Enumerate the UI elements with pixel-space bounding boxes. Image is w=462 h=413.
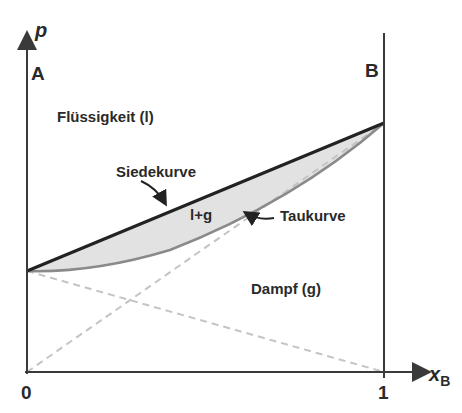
boiling-curve-label: Siedekurve	[116, 163, 196, 180]
phase-diagram: p A B Flüssigkeit (l) Siedekurve l+g Tau…	[0, 0, 462, 413]
dashed-line-a	[27, 271, 384, 372]
liquid-region-label: Flüssigkeit (l)	[57, 108, 154, 125]
boiling-curve-arrow-icon	[141, 181, 165, 203]
x-tick-0: 0	[21, 382, 32, 403]
vapor-region-label: Dampf (g)	[251, 280, 321, 297]
x-tick-1: 1	[378, 382, 389, 403]
x-axis-label: xB	[428, 363, 450, 389]
two-phase-label: l+g	[190, 206, 212, 223]
component-a-label: A	[31, 63, 45, 84]
y-axis-label: p	[34, 19, 47, 41]
dew-curve-label: Taukurve	[280, 207, 346, 224]
boiling-curve	[27, 123, 384, 271]
component-b-label: B	[365, 60, 379, 81]
